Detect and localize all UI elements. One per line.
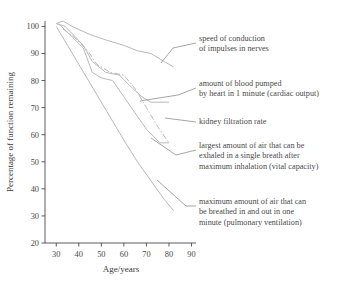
x-tick-label: 90	[187, 250, 195, 259]
annotation-vital-line3: maximum inhalation (vital capacity)	[199, 162, 318, 172]
data-curves	[56, 21, 173, 211]
x-tick-label: 80	[165, 250, 173, 259]
y-tick-label: 60	[31, 131, 39, 140]
x-axis-title: Age/years	[103, 264, 140, 274]
annotation-pulmonary-line2: be breathed in and out in one	[199, 207, 306, 217]
annotation-vital-line1: largest amount of air that can be	[199, 141, 318, 151]
x-axis-ticks: 30405060708090	[52, 243, 196, 259]
annotation-nerve-line2: of impulses in nerves	[199, 44, 269, 54]
annotation-pulmonary-line3: minute (pulmonary ventilation)	[199, 218, 306, 228]
annotation-pulmonary: maximum amount of air that can be breath…	[199, 197, 306, 228]
annotation-pulmonary-line1: maximum amount of air that can	[199, 197, 306, 207]
x-tick-label: 30	[52, 250, 60, 259]
x-tick-label: 50	[97, 250, 105, 259]
y-tick-label: 70	[31, 104, 39, 113]
y-tick-label: 20	[31, 239, 39, 248]
curve-1	[56, 24, 169, 103]
leader-kidney	[165, 118, 196, 122]
annotation-kidney-line1: kidney filtration rate	[199, 117, 266, 127]
annotation-nerve: speed of conduction of impulses in nerve…	[199, 34, 269, 55]
leader-cardiac	[140, 88, 196, 101]
annotation-cardiac-line2: by heart in 1 minute (cardiac output)	[199, 89, 319, 99]
y-tick-label: 40	[31, 185, 39, 194]
y-tick-label: 50	[31, 158, 39, 167]
annotation-cardiac-line1: amount of blood pumped	[199, 79, 319, 89]
curve-0	[56, 21, 173, 67]
y-tick-label: 100	[26, 22, 39, 31]
chart-figure: 2030405060708090100 30405060708090 Age/y…	[0, 0, 355, 285]
curve-4	[56, 26, 173, 210]
y-tick-label: 80	[31, 77, 39, 86]
x-tick-label: 40	[75, 250, 83, 259]
annotation-vital-line2: exhaled in a single breath after	[199, 151, 318, 161]
curve-3	[59, 24, 169, 143]
y-axis-title: Percentage of function remaining	[5, 71, 15, 192]
annotation-kidney: kidney filtration rate	[199, 117, 266, 127]
leader-pulmonary	[157, 180, 196, 206]
y-tick-label: 90	[31, 49, 39, 58]
x-tick-label: 60	[120, 250, 128, 259]
leader-nerve	[161, 43, 196, 63]
y-axis-ticks: 2030405060708090100	[26, 22, 45, 248]
y-tick-label: 30	[31, 212, 39, 221]
annotation-nerve-line1: speed of conduction	[199, 34, 269, 44]
x-tick-label: 70	[142, 250, 150, 259]
annotation-vital: largest amount of air that can be exhale…	[199, 141, 318, 172]
annotation-cardiac: amount of blood pumped by heart in 1 min…	[199, 79, 319, 100]
leader-lines	[140, 43, 196, 206]
